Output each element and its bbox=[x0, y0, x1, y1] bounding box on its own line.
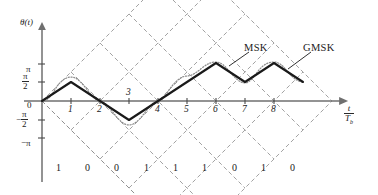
y-tick-pi-over-2-denominator: 2 bbox=[22, 81, 29, 91]
y-tick-neg-pi-over-2-fraction: π 2 bbox=[21, 110, 28, 129]
y-tick-neg-pi: −π bbox=[21, 132, 31, 150]
x-tick-6: 6 bbox=[213, 104, 218, 114]
bit-4: 1 bbox=[173, 162, 178, 173]
y-tick-neg-pi-text: π bbox=[26, 138, 31, 148]
msk-annotation: MSK bbox=[244, 42, 268, 53]
x-axis-label-fraction: t Tb bbox=[344, 104, 354, 125]
x-axis-label-numerator: t bbox=[344, 104, 354, 113]
y-tick-zero-text: 0 bbox=[27, 100, 32, 110]
y-tick-pi-over-2-numerator: π bbox=[22, 72, 29, 81]
y-tick-neg-pi-over-2-denominator: 2 bbox=[21, 119, 28, 129]
y-tick-pi-over-2: π 2 bbox=[22, 71, 29, 91]
bit-1: 0 bbox=[85, 162, 90, 173]
x-tick-3: 3 bbox=[126, 87, 131, 97]
x-axis-label-denominator-sub: b bbox=[350, 119, 353, 125]
bit-0: 1 bbox=[56, 162, 61, 173]
bit-8: 0 bbox=[290, 162, 295, 173]
y-tick-neg-pi-over-2-numerator: π bbox=[21, 110, 28, 119]
y-tick-zero: 0 bbox=[27, 94, 32, 112]
x-axis-label: t Tb bbox=[344, 104, 354, 125]
y-axis-label: θ(t) bbox=[20, 17, 33, 27]
x-tick-1: 1 bbox=[68, 104, 73, 114]
y-tick-neg-pi-over-2: − π 2 bbox=[16, 109, 28, 129]
figure-canvas: θ(t) π π 2 0 − π 2 −π 1 2 3 4 5 6 7 8 t … bbox=[0, 0, 378, 195]
x-tick-2: 2 bbox=[97, 104, 102, 114]
gmsk-annotation: GMSK bbox=[303, 42, 335, 53]
x-axis-label-denominator: Tb bbox=[344, 113, 354, 125]
bit-3: 1 bbox=[144, 162, 149, 173]
x-tick-5: 5 bbox=[184, 104, 189, 114]
x-tick-8: 8 bbox=[271, 104, 276, 114]
y-tick-pi-over-2-fraction: π 2 bbox=[22, 72, 29, 91]
x-tick-4: 4 bbox=[155, 104, 160, 114]
x-tick-7: 7 bbox=[242, 104, 247, 114]
gmsk-curve bbox=[42, 62, 303, 125]
bit-6: 0 bbox=[232, 162, 237, 173]
bit-2: 0 bbox=[114, 162, 119, 173]
bit-5: 1 bbox=[202, 162, 207, 173]
bit-7: 1 bbox=[261, 162, 266, 173]
